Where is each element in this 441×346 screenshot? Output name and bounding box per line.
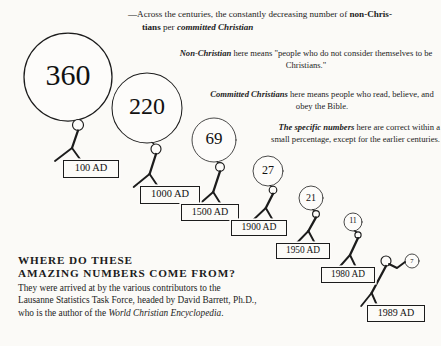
credit-book-title: World Christian Encyclopedia: [108, 308, 221, 318]
figure-head-1000-AD: [151, 144, 161, 154]
balloon-value-1950-AD: 21: [299, 192, 323, 203]
year-label-1950-AD: 1950 AD: [276, 243, 330, 259]
balloon-value-1980-AD: 11: [344, 217, 362, 226]
credit-block: WHERE DO THESE AMAZING NUMBERS COME FROM…: [18, 254, 270, 320]
credit-body: They were arrived at by the various cont…: [18, 282, 270, 320]
headline-bold-committed-christian: committed Christian: [177, 22, 254, 32]
balloon-value-1989-AD: 7: [405, 257, 419, 264]
figure-torso-1000-AD: [150, 154, 156, 174]
committed-christians-term: Committed Christians: [210, 89, 288, 99]
balloon-value-100-AD: 360: [24, 58, 112, 92]
figure-arm-1989-AD: [389, 262, 405, 268]
balloon-value-1900-AD: 27: [253, 164, 283, 177]
figure-torso-1500-AD: [213, 171, 220, 192]
headline-per: per: [161, 22, 177, 32]
caption-nonchristian-definition: Non-Christian here means "people who do …: [172, 47, 440, 71]
caption-committed-definition: Committed Christians here means people w…: [204, 88, 440, 112]
credit-heading-line2: AMAZING NUMBERS COME FROM?: [18, 267, 270, 280]
figure-torso-1900-AD: [266, 194, 273, 208]
headline-line2: tians per committed Christian: [128, 21, 438, 34]
credit-body-line1: They were arrived at by the various cont…: [18, 282, 270, 295]
credit-period: .: [221, 308, 223, 318]
poster-canvas: 360220692721117 100 AD1000 AD1500 AD1900…: [0, 0, 441, 346]
caption-headline: —Across the centuries, the constantly de…: [128, 8, 438, 33]
caption-specific-numbers-note: The specific numbers here are correct wi…: [262, 122, 440, 145]
figure-head-1500-AD: [216, 163, 225, 172]
credit-heading-line1: WHERE DO THESE: [18, 254, 270, 267]
year-label-1500-AD: 1500 AD: [181, 204, 239, 221]
headline-bold-nonchristians: non-Chris-: [349, 9, 391, 19]
nonchristian-term: Non-Christian: [180, 48, 232, 58]
figure-torso-100-AD: [72, 131, 78, 149]
figure-torso-1950-AD: [308, 217, 316, 231]
credit-body-line3: who is the author of the World Christian…: [18, 307, 270, 320]
year-label-1989-AD: 1989 AD: [367, 305, 425, 322]
specific-numbers-term: The specific numbers: [278, 122, 354, 132]
credit-author-prefix: who is the author of the: [18, 308, 108, 318]
year-label-1980-AD: 1980 AD: [321, 267, 375, 283]
year-label-1900-AD: 1900 AD: [231, 220, 287, 236]
committed-definition-text: here means people who read, believe, and…: [288, 89, 434, 111]
nonchristian-definition-text: here means "people who do not consider t…: [231, 48, 432, 70]
year-label-1000-AD: 1000 AD: [140, 186, 200, 204]
figure-torso-1980-AD: [350, 238, 358, 255]
headline-text-part1: —Across the centuries, the constantly de…: [128, 9, 349, 19]
credit-body-line2: Lausanne Statistics Task Force, headed b…: [18, 294, 270, 307]
headline-bold-tians: tians: [142, 22, 161, 32]
year-label-100-AD: 100 AD: [63, 160, 119, 178]
figure-head-100-AD: [73, 120, 84, 131]
balloon-value-1000-AD: 220: [112, 93, 182, 120]
balloon-value-1500-AD: 69: [192, 129, 236, 148]
